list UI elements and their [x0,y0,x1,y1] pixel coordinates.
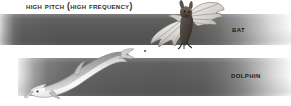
dot-artifact [144,50,146,52]
frequency-band-bat [0,14,291,45]
bat-illustration [147,0,225,50]
band-bat-shading [0,14,291,45]
figure-title: High pitch (high frequency) [26,1,133,11]
frequency-comparison-figure: High pitch (high frequency) Bat Dolphin [0,0,291,106]
band-label-dolphin: Dolphin [231,71,261,80]
band-label-bat: Bat [232,25,245,34]
dolphin-illustration [22,46,137,100]
